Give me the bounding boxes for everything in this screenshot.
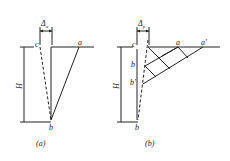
point-label-b-prime: b': [130, 78, 136, 87]
delta-label-p: Δp: [137, 19, 146, 29]
point-label-a: a: [78, 38, 82, 47]
point-label-c: c: [132, 40, 136, 49]
wedge-hatch-4: [162, 47, 178, 56]
height-label-H: H: [112, 82, 121, 90]
caption-b: (b): [145, 139, 155, 148]
wedge-hatch-2: [145, 66, 156, 77]
displaced-wall: [138, 40, 148, 120]
panel-b-labels: Δp c a a' b b' b H (b): [112, 19, 207, 148]
wedge-hatch-3: [178, 47, 188, 58]
wedge-hatch-1: [148, 47, 170, 69]
point-label-b: b: [49, 123, 53, 132]
point-label-a-prime: a': [201, 38, 207, 47]
point-label-a: a: [176, 38, 180, 47]
point-label-b: b: [131, 60, 135, 69]
caption-a: (a): [36, 139, 46, 148]
displaced-wall-cb: [40, 47, 51, 120]
point-label-b-bottom: b: [135, 123, 139, 132]
point-label-c: c: [35, 40, 39, 49]
panel-a-labels: Δa c a b H (a): [15, 19, 82, 148]
failure-plane-ab: [51, 47, 79, 120]
panel-a: [20, 27, 94, 122]
earth-pressure-figure: Δa c a b H (a): [0, 0, 230, 161]
failure-plane-a-prime-b-prime: [143, 47, 203, 84]
height-label-H: H: [15, 82, 24, 90]
delta-label-a: Δa: [40, 19, 49, 29]
